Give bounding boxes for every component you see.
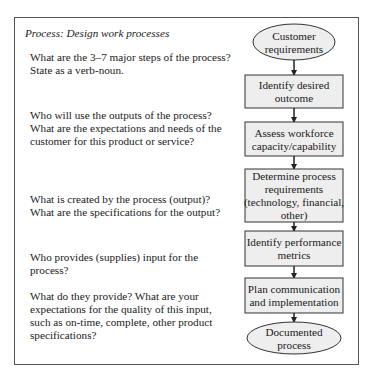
start-node-label: requirements [265, 43, 323, 55]
end-node-label: process [277, 339, 311, 351]
step-box-label: requirements [265, 183, 323, 195]
step-box-label: Identify performance [247, 236, 342, 248]
end-node-label: Documented [265, 326, 323, 338]
step-box-label: (technology, financial, [244, 196, 344, 209]
step-box-label: outcome [275, 92, 314, 104]
step-box-label: other) [281, 209, 308, 222]
step-box-label: Plan communication [248, 283, 341, 295]
step-box-label: Identify desired [259, 79, 330, 91]
step-box-label: metrics [278, 249, 311, 261]
start-node-label: Customer [272, 30, 316, 42]
step-box-label: capacity/capability [252, 140, 337, 152]
flowchart: CustomerrequirementsIdentify desiredoutc… [0, 0, 375, 383]
step-box-label: and implementation [249, 296, 339, 308]
step-box-label: Determine process [252, 170, 336, 182]
step-box-label: Assess workforce [254, 127, 333, 139]
